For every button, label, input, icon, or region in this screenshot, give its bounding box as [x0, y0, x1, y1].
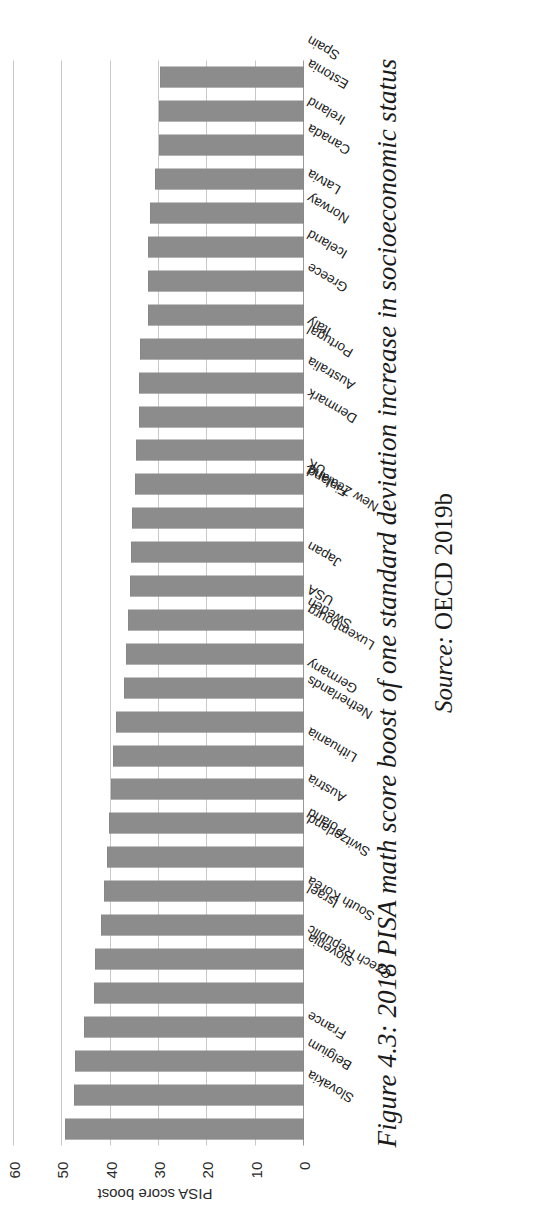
bar-spain[interactable]: [160, 66, 304, 87]
bar-czech-republic[interactable]: [84, 1016, 304, 1037]
bar-new-zealand[interactable]: [131, 541, 304, 562]
bar-luxembourg[interactable]: [124, 677, 304, 698]
category-label-norway: Norway: [305, 191, 352, 227]
bar-denmark[interactable]: [136, 439, 304, 460]
bar-netherlands[interactable]: [113, 745, 304, 766]
bar-slovakia[interactable]: [65, 1118, 304, 1139]
tick-label-0: 0: [296, 1161, 313, 1170]
bar-uk[interactable]: [135, 473, 304, 494]
bar-japan[interactable]: [130, 575, 304, 596]
bar-latvia[interactable]: [150, 202, 304, 223]
bar-portugal[interactable]: [139, 372, 304, 393]
bar-lithuania[interactable]: [111, 778, 304, 799]
bar-austria[interactable]: [109, 812, 304, 833]
tick-label-30: 30: [151, 1161, 168, 1178]
category-label-greece: Greece: [305, 260, 351, 295]
figure-source: Source: OECD 2019b: [430, 0, 458, 1205]
tick-label-50: 50: [54, 1161, 71, 1178]
tick-label-10: 10: [247, 1161, 264, 1178]
category-label-canada: Canada: [305, 121, 353, 158]
value-axis-title-wrap: PISA score boost: [10, 1182, 300, 1202]
category-label-austria: Austria: [305, 771, 349, 805]
bar-south-korea[interactable]: [95, 948, 304, 969]
category-label-slovakia: Slovakia: [305, 1067, 357, 1106]
bar-chart: SlovakiaBelgiumFranceCzech RepublicSlove…: [0, 0, 355, 1205]
category-label-estonia: Estonia: [305, 56, 351, 92]
bar-italy[interactable]: [140, 338, 304, 359]
rotated-figure-content: SlovakiaBelgiumFranceCzech RepublicSlove…: [0, 0, 544, 1205]
bar-israel[interactable]: [101, 914, 304, 935]
bar-estonia[interactable]: [159, 100, 304, 121]
figure-page: SlovakiaBelgiumFranceCzech RepublicSlove…: [0, 0, 544, 1205]
tick-label-20: 20: [199, 1161, 216, 1178]
bar-germany[interactable]: [116, 711, 304, 732]
source-value: OECD 2019b: [430, 493, 457, 630]
bar-usa[interactable]: [128, 609, 304, 630]
source-label: Source:: [430, 636, 457, 713]
bar-greece[interactable]: [148, 304, 304, 325]
bar-sweden[interactable]: [126, 643, 304, 664]
bar-poland[interactable]: [107, 846, 304, 867]
bar-iceland[interactable]: [148, 270, 304, 291]
bar-switzerland[interactable]: [104, 880, 304, 901]
bar-france[interactable]: [75, 1050, 304, 1071]
category-label-lithuania: Lithuania: [305, 724, 360, 764]
bar-slovenia[interactable]: [94, 982, 304, 1003]
tick-label-40: 40: [102, 1161, 119, 1178]
bar-canada[interactable]: [155, 168, 304, 189]
plot-area: [14, 60, 304, 1145]
bar-australia[interactable]: [139, 406, 304, 427]
figure-caption: Figure 4.3: 2018 PISA math score boost o…: [372, 0, 403, 1205]
bar-ireland[interactable]: [159, 134, 304, 155]
category-label-japan: Japan: [305, 539, 344, 570]
category-label-iceland: Iceland: [305, 227, 350, 262]
bar-belgium[interactable]: [74, 1084, 304, 1105]
bar-series: [14, 60, 304, 1145]
tick-label-60: 60: [6, 1161, 23, 1178]
value-axis-title: PISA score boost: [10, 1185, 300, 1202]
bar-finland[interactable]: [132, 507, 304, 528]
bar-norway[interactable]: [148, 236, 304, 257]
